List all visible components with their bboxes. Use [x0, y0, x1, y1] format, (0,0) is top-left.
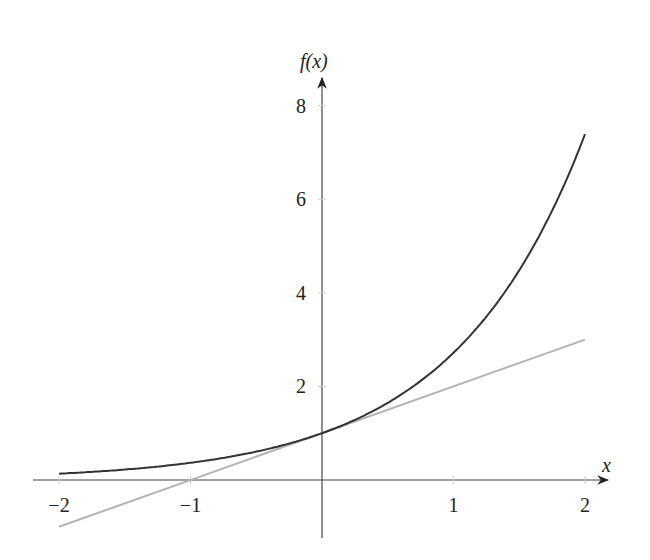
x-tick-label: −1: [180, 494, 201, 516]
chart: −2−1122468 x f(x): [0, 0, 650, 560]
x-tick-label: −2: [48, 494, 69, 516]
x-tick-label: 2: [580, 494, 590, 516]
x-tick-label: 1: [449, 494, 459, 516]
y-tick-label: 2: [296, 375, 306, 397]
y-tick-label: 8: [296, 95, 306, 117]
x-axis-label: x: [601, 454, 611, 476]
ticks: −2−1122468: [48, 95, 590, 516]
y-tick-label: 4: [296, 282, 306, 304]
plot-area: −2−1122468 x f(x): [0, 0, 650, 560]
y-tick-label: 6: [296, 188, 306, 210]
y-axis-label: f(x): [300, 50, 328, 73]
